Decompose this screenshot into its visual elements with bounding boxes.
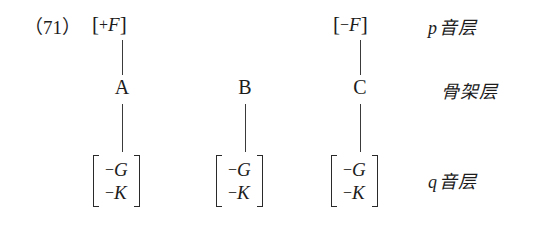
feature-matrix-a: −G −K	[93, 155, 140, 207]
matrix-row: −K	[343, 181, 366, 204]
bracket-close-c: ]	[361, 12, 368, 36]
matrix-row: −K	[228, 181, 251, 204]
skeleton-node-c: C	[348, 76, 372, 99]
bracket-open-c: [	[333, 12, 340, 36]
feature-matrix-b: −G −K	[216, 155, 263, 207]
top-feature-c: [−F]	[333, 12, 368, 37]
feature-variable-c: F	[349, 14, 361, 35]
tier-text-p: 音层	[439, 18, 477, 38]
matrix-rows-b: −G −K	[223, 155, 256, 207]
matrix-bracket-right-a	[133, 155, 140, 207]
association-line-c-lower	[360, 104, 361, 152]
matrix-variable: K	[114, 182, 127, 203]
association-line-c-upper	[360, 40, 361, 75]
phonological-tree-figure: （71） [+F] A −G −K B −G −K [−	[0, 0, 536, 227]
top-feature-a: [+F]	[92, 12, 127, 37]
association-line-a-lower	[122, 104, 123, 152]
matrix-bracket-left-b	[216, 155, 223, 207]
feature-variable-a: F	[108, 14, 120, 35]
matrix-variable: K	[352, 182, 365, 203]
association-line-b-lower	[245, 104, 246, 152]
example-number: （71）	[24, 12, 81, 39]
association-line-a-upper	[122, 40, 123, 75]
matrix-sign: −	[105, 184, 114, 201]
matrix-sign: −	[343, 161, 352, 178]
tier-label-skeleton: 骨架层	[441, 77, 498, 103]
skeleton-node-a: A	[110, 76, 134, 99]
tier-text-q: 音层	[439, 172, 477, 192]
skeleton-node-b: B	[233, 76, 257, 99]
matrix-bracket-left-c	[331, 155, 338, 207]
matrix-sign: −	[228, 161, 237, 178]
matrix-rows-c: −G −K	[338, 155, 371, 207]
matrix-sign: −	[105, 161, 114, 178]
tier-label-p: p音层	[428, 13, 477, 39]
bracket-open-a: [	[92, 12, 99, 36]
tier-variable-q: q	[428, 172, 439, 192]
matrix-sign: −	[343, 184, 352, 201]
matrix-rows-a: −G −K	[100, 155, 133, 207]
tier-label-q: q音层	[428, 167, 477, 193]
matrix-row: −G	[228, 158, 251, 181]
matrix-row: −K	[105, 181, 128, 204]
matrix-bracket-right-c	[371, 155, 378, 207]
matrix-sign: −	[228, 184, 237, 201]
tier-variable-p: p	[428, 18, 439, 38]
feature-matrix-c: −G −K	[331, 155, 378, 207]
matrix-row: −G	[105, 158, 128, 181]
matrix-bracket-left-a	[93, 155, 100, 207]
matrix-variable: G	[352, 159, 366, 180]
matrix-bracket-right-b	[256, 155, 263, 207]
feature-sign-a: +	[99, 16, 108, 33]
bracket-close-a: ]	[120, 12, 127, 36]
tier-text-skeleton: 骨架层	[441, 82, 498, 102]
matrix-variable: K	[237, 182, 250, 203]
matrix-variable: G	[237, 159, 251, 180]
matrix-variable: G	[114, 159, 128, 180]
feature-sign-c: −	[340, 16, 349, 33]
matrix-row: −G	[343, 158, 366, 181]
